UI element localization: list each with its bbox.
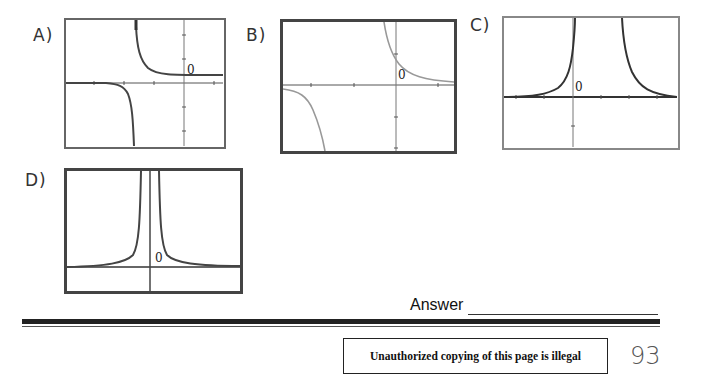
graph-c-origin-label: 0 (575, 80, 583, 94)
graph-c-plot (504, 18, 677, 147)
divider-thick (22, 319, 660, 324)
option-b-label: B) (246, 25, 266, 45)
graph-d-origin-label: 0 (155, 251, 163, 265)
graph-b-origin-label: 0 (398, 68, 406, 82)
graph-d-plot (67, 171, 240, 291)
option-c-label: C) (470, 15, 491, 35)
graph-a-plot (66, 20, 223, 146)
divider-thin (22, 326, 660, 327)
option-d-label: D) (25, 170, 47, 190)
copyright-notice-box: Unauthorized copying of this page is ill… (343, 338, 608, 374)
graph-b: 0 (280, 19, 457, 154)
graph-a: 0 (64, 18, 226, 149)
copyright-notice: Unauthorized copying of this page is ill… (370, 350, 581, 362)
answer-label: Answer (410, 296, 463, 314)
graph-c: 0 (502, 16, 680, 150)
graph-a-origin-label: 0 (187, 63, 195, 77)
page-number: 93 (630, 342, 661, 370)
graph-b-plot (283, 22, 454, 151)
option-a-label: A) (33, 25, 53, 45)
answer-field[interactable] (468, 314, 658, 315)
graph-d: 0 (64, 168, 243, 294)
